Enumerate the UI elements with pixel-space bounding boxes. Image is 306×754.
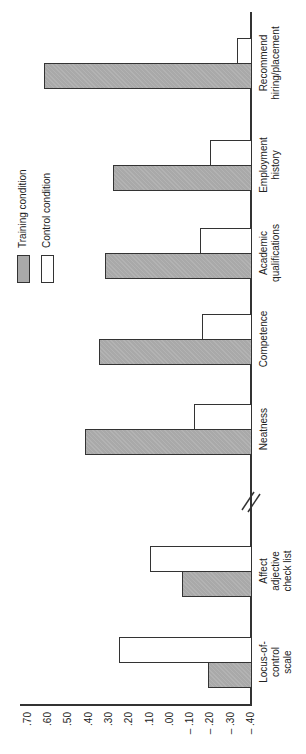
- rotated-bar-chart: .70.60.50.40.30.20.10.00– .10– .20– .30–…: [0, 0, 306, 754]
- tick-label: .20: [123, 712, 134, 746]
- tick-label: .60: [42, 712, 53, 746]
- bar-training: [85, 429, 251, 455]
- tick-label: – .30: [225, 712, 236, 746]
- axis-break-icon: [240, 488, 262, 514]
- tick-label: .00: [164, 712, 175, 746]
- bar-control: [202, 314, 251, 340]
- tick-label: – .40: [245, 712, 256, 746]
- tick-label: .50: [62, 712, 73, 746]
- value-axis: [20, 704, 252, 706]
- legend-label-training: Training condition: [17, 169, 28, 248]
- tick-label: – .20: [204, 712, 215, 746]
- tick-label: .30: [103, 712, 114, 746]
- bar-training: [44, 63, 251, 89]
- tick-label: .10: [144, 712, 155, 746]
- bar-control: [119, 637, 251, 663]
- legend-label-control: Control condition: [41, 173, 52, 248]
- legend-swatch-control: [41, 255, 54, 283]
- category-label: Affectadjectivecheck list: [258, 511, 294, 631]
- legend-swatch-training: [17, 255, 30, 283]
- category-label: Employmenthistory: [258, 105, 282, 225]
- tick-label: .40: [83, 712, 94, 746]
- bar-training: [208, 662, 251, 688]
- tick-label: .70: [22, 712, 33, 746]
- bar-training: [99, 339, 251, 365]
- bar-control: [237, 38, 251, 64]
- bar-control: [200, 228, 251, 254]
- bar-control: [150, 546, 252, 572]
- bar-training: [182, 571, 251, 597]
- category-label: Recommendhiring/placement: [258, 3, 282, 123]
- bar-control: [210, 140, 251, 166]
- tick-label: – .10: [184, 712, 195, 746]
- bar-control: [194, 404, 251, 430]
- bar-training: [113, 165, 251, 191]
- bar-training: [105, 253, 251, 279]
